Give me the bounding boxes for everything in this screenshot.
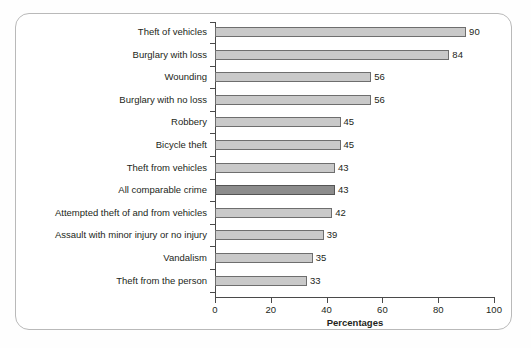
- chart-figure: 908456564545434342393533 Theft of vehicl…: [0, 0, 531, 348]
- x-axis-tick-label: 100: [474, 304, 514, 315]
- x-axis-tick: [494, 298, 495, 303]
- bar-value-label: 42: [335, 207, 346, 218]
- category-label: Attempted theft of and from vehicles: [7, 207, 207, 218]
- y-axis-tick: [210, 179, 215, 180]
- y-axis-tick: [210, 224, 215, 225]
- category-label-row: Theft from the person: [0, 275, 207, 286]
- bar-value-label: 33: [310, 275, 321, 286]
- y-axis-tick: [210, 292, 215, 293]
- bar: [215, 50, 449, 60]
- category-label-row: Theft from vehicles: [0, 162, 207, 173]
- x-axis-tick-label: 60: [362, 304, 402, 315]
- y-axis-tick: [210, 156, 215, 157]
- category-label-row: Burglary with no loss: [0, 94, 207, 105]
- category-label-row: All comparable crime: [0, 184, 207, 195]
- bar: [215, 95, 371, 105]
- y-axis-tick: [210, 22, 215, 23]
- category-label: Theft from vehicles: [7, 162, 207, 173]
- bar-value-label: 90: [469, 26, 480, 37]
- category-label: Bicycle theft: [7, 139, 207, 150]
- y-axis-tick: [210, 246, 215, 247]
- x-axis-line: [215, 297, 495, 298]
- category-label-row: Assault with minor injury or no injury: [0, 229, 207, 240]
- bar: [215, 27, 466, 37]
- x-axis-tick: [271, 298, 272, 303]
- category-label-row: Vandalism: [0, 252, 207, 263]
- y-axis-tick: [210, 43, 215, 44]
- category-label: Theft of vehicles: [7, 26, 207, 37]
- category-label: Theft from the person: [7, 275, 207, 286]
- x-axis-tick: [327, 298, 328, 303]
- bar: [215, 72, 371, 82]
- y-axis-tick: [210, 133, 215, 134]
- bar: [215, 185, 335, 195]
- x-axis-tick: [215, 298, 216, 303]
- bar: [215, 276, 307, 286]
- bar: [215, 163, 335, 173]
- y-axis-tick: [210, 269, 215, 270]
- category-label: Vandalism: [7, 252, 207, 263]
- bar: [215, 140, 341, 150]
- x-axis-tick-label: 20: [251, 304, 291, 315]
- bar-value-label: 35: [316, 252, 327, 263]
- x-axis-tick-label: 0: [195, 304, 235, 315]
- category-label: Burglary with no loss: [7, 94, 207, 105]
- bar-value-label: 45: [344, 139, 355, 150]
- y-axis-tick: [210, 201, 215, 202]
- bar-value-label: 56: [374, 71, 385, 82]
- category-label: Burglary with loss: [7, 49, 207, 60]
- x-axis-tick: [438, 298, 439, 303]
- bar: [215, 208, 332, 218]
- category-label: Robbery: [7, 116, 207, 127]
- category-label: Wounding: [7, 71, 207, 82]
- y-axis-tick: [210, 111, 215, 112]
- category-label: All comparable crime: [7, 184, 207, 195]
- x-axis-tick: [382, 298, 383, 303]
- category-label-row: Bicycle theft: [0, 139, 207, 150]
- bar-value-label: 84: [452, 49, 463, 60]
- category-label-row: Attempted theft of and from vehicles: [0, 207, 207, 218]
- bar-value-label: 39: [327, 229, 338, 240]
- x-axis-tick-label: 80: [418, 304, 458, 315]
- bar: [215, 253, 313, 263]
- bar-value-label: 56: [374, 94, 385, 105]
- bar-value-label: 45: [344, 116, 355, 127]
- x-axis-title: Percentages: [215, 317, 495, 328]
- x-axis-tick-label: 40: [307, 304, 347, 315]
- bar: [215, 117, 341, 127]
- category-label-row: Wounding: [0, 71, 207, 82]
- bar-value-label: 43: [338, 162, 349, 173]
- category-label-row: Robbery: [0, 116, 207, 127]
- bar: [215, 230, 324, 240]
- y-axis-tick: [210, 66, 215, 67]
- category-label-row: Burglary with loss: [0, 49, 207, 60]
- category-label-row: Theft of vehicles: [0, 26, 207, 37]
- bar-value-label: 43: [338, 184, 349, 195]
- y-axis-tick: [210, 88, 215, 89]
- category-label: Assault with minor injury or no injury: [7, 229, 207, 240]
- bar-chart-plot-area: 908456564545434342393533 Theft of vehicl…: [0, 0, 531, 348]
